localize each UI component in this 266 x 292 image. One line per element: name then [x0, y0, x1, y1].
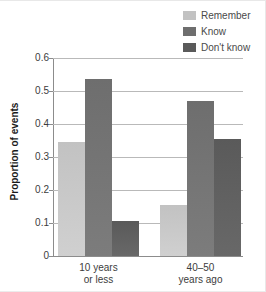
bar-don-t-know-1	[214, 139, 241, 256]
y-tick-label: 0.4	[35, 119, 49, 129]
category-label-0: 10 yearsor less	[54, 262, 144, 286]
category-label-1: 40–50years ago	[156, 262, 246, 286]
x-axis-spine	[53, 256, 243, 257]
y-tick-mark	[49, 124, 53, 125]
y-tick-label: 0.2	[35, 185, 49, 195]
y-tick-mark	[49, 256, 53, 257]
y-tick-label: 0	[43, 251, 49, 261]
y-tick-mark	[49, 58, 53, 59]
bar-remember-0	[58, 142, 85, 256]
y-tick-label: 0.3	[35, 152, 49, 162]
bar-know-0	[85, 79, 112, 256]
y-axis-title: Proportion of events	[9, 77, 20, 227]
y-tick-label: 0.6	[35, 53, 49, 63]
category-label-line: 10 years	[54, 262, 144, 274]
y-tick-mark	[49, 190, 53, 191]
bar-know-1	[187, 101, 214, 256]
chart-figure: Remember Know Don't know Proportion of e…	[0, 0, 266, 292]
gridline	[53, 124, 243, 125]
y-tick-mark	[49, 157, 53, 158]
y-tick-mark	[49, 223, 53, 224]
plot-wrapper: Proportion of events 00.10.20.30.40.50.6…	[0, 1, 266, 292]
bar-remember-1	[160, 205, 187, 256]
y-tick-mark	[49, 91, 53, 92]
gridline	[53, 91, 243, 92]
bar-don-t-know-0	[112, 221, 139, 256]
gridline	[53, 58, 243, 59]
category-label-line: 40–50	[156, 262, 246, 274]
y-tick-label: 0.1	[35, 218, 49, 228]
plot-area: 00.10.20.30.40.50.6 10 yearsor less40–50…	[53, 58, 243, 256]
category-label-line: years ago	[156, 274, 246, 286]
category-label-line: or less	[54, 274, 144, 286]
y-tick-label: 0.5	[35, 86, 49, 96]
